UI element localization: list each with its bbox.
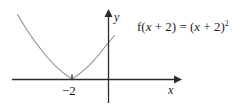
tick-label-neg2: −2: [62, 84, 76, 97]
equation-exponent: 2: [225, 19, 229, 28]
parabola-figure: y x −2 f(x + 2) = (x + 2)2: [0, 0, 242, 111]
x-axis-arrowhead: [174, 76, 182, 84]
axis-label-y: y: [114, 11, 119, 23]
equation-right-term: + 2): [200, 19, 225, 34]
parabola-curve: [18, 15, 115, 80]
graph-canvas: [0, 0, 242, 111]
equation-equals: = (: [176, 19, 194, 34]
equation-label: f(x + 2) = (x + 2)2: [137, 20, 229, 33]
equation-left-term: + 2): [151, 19, 176, 34]
y-axis-arrowhead: [105, 9, 113, 17]
axis-label-x: x: [168, 84, 173, 96]
